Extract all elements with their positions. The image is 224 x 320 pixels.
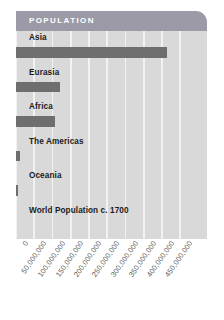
population-bar-chart-figure: POPULATION AsiaEurasiaAfricaThe Americas… bbox=[0, 0, 224, 320]
bar bbox=[16, 47, 167, 58]
chart-header-band: POPULATION bbox=[16, 11, 207, 31]
category-label: The Americas bbox=[29, 137, 84, 146]
category-label: Eurasia bbox=[29, 68, 59, 77]
chart-row: The Americas bbox=[16, 135, 207, 170]
x-axis-tick-labels: 050,000,000100,000,000150,000,000200,000… bbox=[0, 239, 224, 320]
category-label: World Population c. 1700 bbox=[29, 206, 129, 215]
page-title: POPULATION bbox=[29, 16, 95, 25]
bar bbox=[16, 82, 60, 93]
x-tick-label: 0 bbox=[21, 239, 31, 248]
chart-row: Oceania bbox=[16, 169, 207, 204]
chart-row: Eurasia bbox=[16, 66, 207, 101]
chart-row: World Population c. 1700 bbox=[16, 204, 207, 239]
category-label: Asia bbox=[29, 33, 47, 42]
chart-row: Africa bbox=[16, 100, 207, 135]
chart-row: Asia bbox=[16, 31, 207, 66]
chart-panel: POPULATION AsiaEurasiaAfricaThe Americas… bbox=[16, 11, 207, 239]
plot-area: AsiaEurasiaAfricaThe AmericasOceaniaWorl… bbox=[16, 31, 207, 239]
bar bbox=[16, 116, 55, 127]
category-label: Oceania bbox=[29, 171, 62, 180]
category-label: Africa bbox=[29, 102, 53, 111]
bar bbox=[16, 151, 20, 162]
bar bbox=[16, 185, 18, 196]
